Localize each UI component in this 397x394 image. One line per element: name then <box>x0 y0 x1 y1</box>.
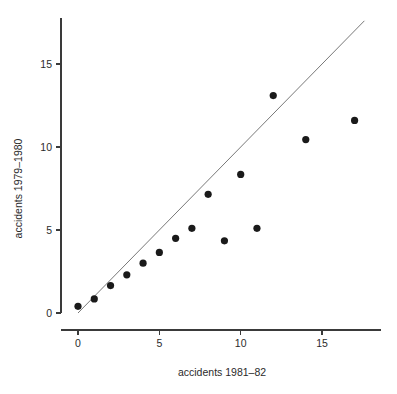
data-point: (6, 4.5) <box>172 235 179 242</box>
data-point: (5, 3.65) <box>156 249 163 256</box>
data-point: (12, 13.1) <box>270 92 277 99</box>
x-tick-label: 5 <box>156 337 162 349</box>
y-tick-label: 10 <box>40 141 52 153</box>
x-axis-title: accidents 1981–82 <box>178 366 266 378</box>
scatter-plot-figure: (0, 0.4)(1, 0.85)(2, 1.65)(3, 2.3)(4, 3)… <box>0 0 397 394</box>
reference-line-layer <box>78 21 364 313</box>
data-point: (10, 8.35) <box>237 171 244 178</box>
data-point: (9, 4.35) <box>221 237 228 244</box>
y-tick-label: 5 <box>46 224 52 236</box>
identity-reference-line <box>78 21 364 313</box>
data-point: (3, 2.3) <box>123 271 130 278</box>
axes-layer <box>56 18 381 335</box>
data-point: (14, 10.45) <box>302 136 309 143</box>
data-points-layer: (0, 0.4)(1, 0.85)(2, 1.65)(3, 2.3)(4, 3)… <box>74 92 358 310</box>
data-point: (2, 1.65) <box>107 282 114 289</box>
chart-canvas: (0, 0.4)(1, 0.85)(2, 1.65)(3, 2.3)(4, 3)… <box>0 0 397 394</box>
x-tick-label: 15 <box>316 337 328 349</box>
x-tick-label: 0 <box>75 337 81 349</box>
data-point: (8, 7.15) <box>205 191 212 198</box>
data-point: (11, 5.1) <box>253 225 260 232</box>
data-point: (0, 0.4) <box>74 303 81 310</box>
y-axis-title: accidents 1979–1980 <box>12 138 24 238</box>
x-tick-label: 10 <box>235 337 247 349</box>
y-tick-label: 15 <box>40 58 52 70</box>
data-point: (4, 3) <box>139 260 146 267</box>
y-tick-label: 0 <box>46 307 52 319</box>
data-point: (1, 0.85) <box>91 295 98 302</box>
data-point: (17, 11.6) <box>351 117 358 124</box>
data-point: (7, 5.1) <box>188 225 195 232</box>
